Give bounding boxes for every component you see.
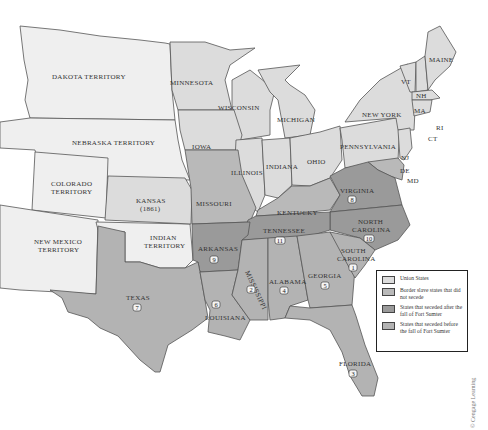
badge-florida: 3	[349, 370, 357, 378]
legend-item-after: States that seceded after the fall of Fo…	[382, 304, 463, 318]
label-new-mexico-2: TERRITORY	[38, 246, 79, 254]
label-kentucky: KENTUCKY	[277, 209, 318, 217]
label-nj: NJ	[401, 154, 409, 162]
label-dakota-territory: DAKOTA TERRITORY	[52, 73, 126, 81]
badge-virginia: 8	[348, 196, 356, 204]
badge-texas: 7	[133, 304, 141, 312]
label-texas: TEXAS	[126, 294, 150, 302]
legend-item-border: Border slave states that did not secede	[382, 287, 463, 301]
label-ohio: OHIO	[307, 158, 326, 166]
legend-item-before: States that seceded before the fall of F…	[382, 321, 463, 335]
svg-text:10: 10	[366, 235, 373, 242]
svg-text:1: 1	[351, 264, 354, 271]
legend-label-union: Union States	[400, 275, 429, 282]
label-new-york: NEW YORK	[362, 111, 402, 119]
copyright-credit: © Cengage Learning	[470, 362, 480, 428]
label-florida: FLORIDA	[339, 360, 371, 368]
civil-war-secession-map: DAKOTA TERRITORY NEBRASKA TERRITORY COLO…	[0, 0, 488, 430]
label-kansas-2: (1861)	[140, 205, 161, 213]
credit-text: © Cengage Learning	[470, 378, 476, 428]
badge-georgia: 5	[321, 282, 329, 290]
svg-text:11: 11	[277, 237, 283, 244]
label-virginia: VIRGINIA	[340, 187, 374, 195]
label-indiana: INDIANA	[266, 163, 298, 171]
label-kansas-1: KANSAS	[136, 197, 166, 205]
legend-swatch-before	[382, 322, 395, 330]
map-legend: Union States Border slave states that di…	[376, 270, 468, 352]
label-illinois: ILLINOIS	[231, 169, 263, 177]
label-ct: CT	[428, 135, 438, 143]
label-tennessee: TENNESSEE	[263, 227, 305, 235]
label-nebraska-territory: NEBRASKA TERRITORY	[72, 139, 155, 147]
label-georgia: GEORGIA	[308, 272, 342, 280]
svg-text:3: 3	[351, 370, 354, 377]
badge-alabama: 4	[280, 287, 288, 295]
label-nc-1: NORTH	[358, 218, 383, 226]
legend-item-union: Union States	[382, 275, 463, 284]
legend-swatch-union	[382, 276, 395, 284]
label-nh: NH	[416, 92, 427, 100]
label-new-mexico-1: NEW MEXICO	[34, 238, 82, 246]
label-nc-2: CAROLINA	[352, 226, 391, 234]
legend-label-after: States that seceded after the fall of Fo…	[400, 304, 463, 318]
badge-mississippi: 2	[247, 286, 255, 294]
svg-text:5: 5	[323, 282, 326, 289]
label-ri: RI	[436, 124, 444, 132]
badge-north-carolina: 10	[364, 235, 374, 243]
region-florida	[285, 305, 378, 396]
label-wisconsin: WISCONSIN	[218, 104, 260, 112]
label-sc-1: SOUTH	[341, 247, 366, 255]
legend-label-before: States that seceded before the fall of F…	[400, 321, 463, 335]
legend-label-border: Border slave states that did not secede	[400, 287, 463, 301]
label-missouri: MISSOURI	[196, 200, 232, 208]
badge-south-carolina: 1	[349, 264, 357, 272]
label-minnesota: MINNESOTA	[170, 79, 213, 87]
label-vt: VT	[401, 78, 411, 86]
label-md: MD	[407, 177, 419, 185]
legend-swatch-after	[382, 305, 395, 313]
label-arkansas: ARKANSAS	[198, 245, 238, 253]
label-iowa: IOWA	[192, 143, 211, 151]
label-louisiana: LOUISIANA	[205, 314, 246, 322]
label-maine: MAINE	[429, 56, 453, 64]
svg-text:2: 2	[249, 286, 252, 293]
badge-tennessee: 11	[275, 237, 285, 245]
svg-text:9: 9	[212, 256, 215, 263]
label-indian-1: INDIAN	[150, 234, 177, 242]
label-pennsylvania: PENNSYLVANIA	[340, 143, 396, 151]
badge-arkansas: 9	[210, 256, 218, 264]
label-colorado-2: TERRITORY	[51, 188, 92, 196]
label-sc-2: CAROLINA	[337, 255, 376, 263]
label-colorado-1: COLORADO	[51, 180, 92, 188]
legend-swatch-border	[382, 288, 395, 296]
svg-text:8: 8	[350, 196, 353, 203]
label-michigan: MICHIGAN	[277, 116, 315, 124]
badge-louisiana: 6	[212, 301, 220, 309]
label-alabama: ALABAMA	[269, 278, 307, 286]
label-indian-2: TERRITORY	[144, 242, 185, 250]
label-de: DE	[400, 167, 410, 175]
label-ma: MA	[414, 107, 426, 115]
